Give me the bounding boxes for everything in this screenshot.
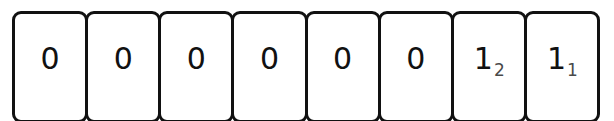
bit-cell-value: 0 <box>187 44 206 74</box>
bit-digit: 0 <box>406 44 425 74</box>
bit-cell[interactable]: 0 <box>12 11 88 121</box>
bit-cell-row: 0 0 0 0 0 0 <box>12 11 600 121</box>
bit-cell[interactable]: 0 <box>158 11 234 121</box>
bit-cell-value: 0 <box>333 44 352 74</box>
bit-subscript: 1 <box>567 62 578 79</box>
bit-cell-value: 0 <box>406 44 425 74</box>
bit-cell[interactable]: 0 <box>305 11 381 121</box>
bit-cell[interactable]: 12 <box>451 11 527 121</box>
bit-digit: 1 <box>474 44 493 74</box>
bit-digit: 1 <box>547 44 566 74</box>
bit-digit: 0 <box>41 44 60 74</box>
bit-cell-value: 0 <box>260 44 279 74</box>
bit-cell-strip: 0 0 0 0 0 0 <box>0 0 614 121</box>
bit-digit: 0 <box>333 44 352 74</box>
bit-cell-value: 0 <box>41 44 60 74</box>
bit-digit: 0 <box>187 44 206 74</box>
bit-digit: 0 <box>114 44 133 74</box>
bit-subscript: 2 <box>494 62 505 79</box>
bit-cell-value: 12 <box>474 44 504 74</box>
bit-cell-value: 0 <box>114 44 133 74</box>
bit-cell[interactable]: 0 <box>85 11 161 121</box>
bit-cell[interactable]: 0 <box>378 11 454 121</box>
bit-digit: 0 <box>260 44 279 74</box>
bit-cell[interactable]: 0 <box>231 11 307 121</box>
bit-cell-value: 11 <box>547 44 577 74</box>
bit-cell[interactable]: 11 <box>524 11 600 121</box>
